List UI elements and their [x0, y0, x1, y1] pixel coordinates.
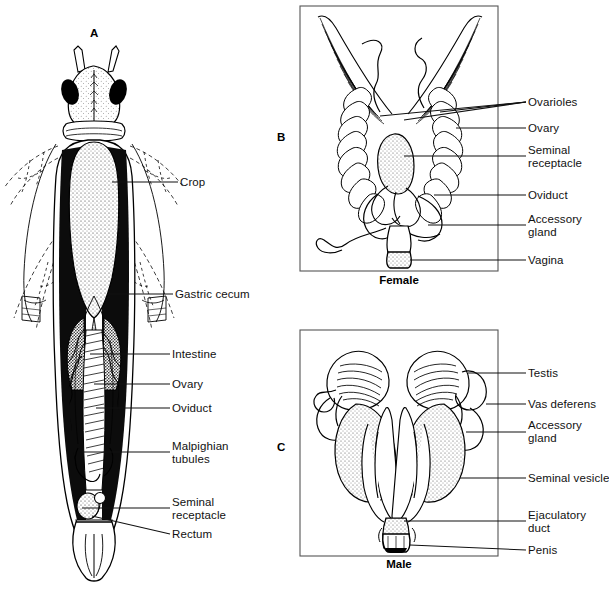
label-accessory-c: Accessory — [528, 419, 582, 432]
label-penis: Penis — [528, 544, 557, 557]
label-gland-b: gland — [528, 226, 557, 239]
caption-female: Female — [349, 274, 449, 286]
label-ovary: Ovary — [172, 378, 203, 391]
label-intestine: Intestine — [172, 348, 216, 361]
label-testis: Testis — [528, 367, 558, 380]
label-ovarioles: Ovarioles — [528, 96, 577, 109]
label-vas-deferens: Vas deferens — [528, 398, 596, 411]
panel-letter-b: B — [277, 131, 285, 143]
label-ejaculatory: Ejaculatory — [528, 509, 586, 522]
label-crop: Crop — [180, 176, 205, 189]
caption-male: Male — [349, 558, 449, 570]
panel-letter-a: A — [90, 27, 98, 39]
label-rectum: Rectum — [172, 528, 212, 541]
label-accessory-b: Accessory — [528, 213, 582, 226]
label-receptacle-a: receptacle — [172, 509, 226, 522]
testis-left — [327, 351, 389, 410]
label-seminal-vesicle: Seminal vesicle — [528, 472, 609, 485]
label-malpighian: Malpighian — [172, 440, 229, 453]
label-receptacle-b: receptacle — [528, 157, 582, 170]
label-tubules: tubules — [172, 453, 210, 466]
label-gland-c: gland — [528, 432, 557, 445]
panel-letter-c: C — [277, 441, 285, 453]
label-duct: duct — [528, 522, 550, 535]
label-seminal-b: Seminal — [528, 144, 570, 157]
label-oviduct: Oviduct — [172, 402, 212, 415]
male-organs — [314, 351, 486, 553]
label-ovary-b: Ovary — [528, 122, 559, 135]
label-gastric-cecum: Gastric cecum — [175, 288, 250, 301]
label-seminal-a: Seminal — [172, 496, 214, 509]
label-vagina: Vagina — [528, 254, 564, 267]
label-oviduct-b: Oviduct — [528, 189, 568, 202]
